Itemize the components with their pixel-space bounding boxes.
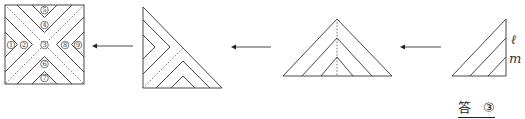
svg-text:5: 5: [42, 6, 46, 14]
isosceles-triangle-figure: [283, 19, 392, 76]
cut-line: [156, 61, 210, 88]
line-l: [470, 38, 506, 76]
svg-text:7: 7: [42, 74, 46, 82]
answer: 答③: [458, 97, 495, 118]
right-triangle-figure: [143, 7, 222, 88]
cut-line: [143, 20, 170, 74]
cut-line: [171, 76, 195, 88]
region-label-7: 7: [41, 74, 49, 82]
arrow-left-icon: [400, 45, 441, 50]
cut-line: [143, 35, 155, 59]
triangle-outline: [452, 19, 506, 76]
svg-text:1: 1: [9, 41, 13, 49]
line-m: [488, 57, 506, 76]
cut-line: [321, 57, 353, 76]
region-label-1: 1: [7, 41, 15, 49]
svg-text:8: 8: [63, 41, 67, 49]
label-m: m: [509, 51, 521, 66]
region-label-5: 5: [41, 6, 49, 14]
region-label-9: 9: [74, 41, 82, 49]
region-label-2: 2: [20, 41, 28, 49]
answer-label: 答: [458, 100, 471, 115]
unfolded-square-figure: 1 2 3 4 5 6 7 8 9: [5, 5, 84, 84]
arrow-left-icon: [92, 44, 133, 49]
svg-text:3: 3: [42, 41, 46, 49]
triangle-outline: [283, 19, 392, 76]
svg-text:4: 4: [42, 21, 46, 29]
region-label-6: 6: [41, 60, 49, 68]
svg-text:9: 9: [76, 41, 80, 49]
region-label-3: 3: [41, 41, 49, 49]
svg-text:6: 6: [42, 60, 46, 68]
region-label-4: 4: [41, 21, 49, 29]
folded-triangle-figure: ℓ m: [452, 19, 521, 76]
folding-diagram: 1 2 3 4 5 6 7 8 9: [0, 0, 525, 119]
label-l: ℓ: [511, 32, 517, 47]
region-label-8: 8: [61, 41, 69, 49]
answer-value: ③: [483, 100, 495, 115]
arrow-left-icon: [231, 45, 271, 50]
svg-text:2: 2: [22, 41, 26, 49]
